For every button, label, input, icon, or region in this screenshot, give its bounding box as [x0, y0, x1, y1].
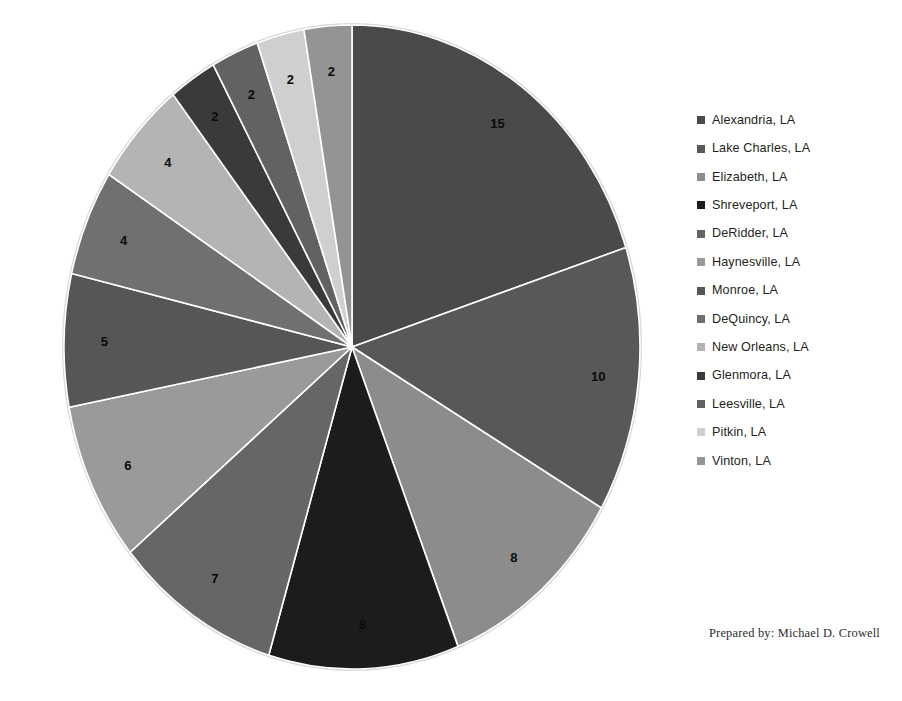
- legend-swatch-icon: [697, 173, 705, 181]
- legend-swatch-icon: [697, 201, 705, 209]
- legend-swatch-icon: [697, 372, 705, 380]
- legend-item[interactable]: Lake Charles, LA: [697, 134, 897, 162]
- legend-swatch-icon: [697, 145, 705, 153]
- legend-item[interactable]: Glenmora, LA: [697, 362, 897, 390]
- chart-legend: Alexandria, LALake Charles, LAElizabeth,…: [697, 106, 897, 475]
- legend-item-label: New Orleans, LA: [712, 341, 809, 354]
- legend-item-label: DeQuincy, LA: [712, 313, 790, 326]
- legend-item[interactable]: Vinton, LA: [697, 447, 897, 475]
- legend-item[interactable]: Haynesville, LA: [697, 248, 897, 276]
- legend-item[interactable]: DeQuincy, LA: [697, 305, 897, 333]
- legend-item-label: Leesville, LA: [712, 398, 785, 411]
- legend-item[interactable]: Monroe, LA: [697, 276, 897, 304]
- legend-item[interactable]: Pitkin, LA: [697, 418, 897, 446]
- legend-item-label: Vinton, LA: [712, 455, 771, 468]
- legend-item-label: Glenmora, LA: [712, 369, 791, 382]
- legend-item[interactable]: DeRidder, LA: [697, 220, 897, 248]
- legend-item[interactable]: Alexandria, LA: [697, 106, 897, 134]
- prepared-by-credit: Prepared by: Michael D. Crowell: [709, 626, 880, 641]
- legend-swatch-icon: [697, 258, 705, 266]
- legend-item[interactable]: New Orleans, LA: [697, 333, 897, 361]
- legend-item-label: Pitkin, LA: [712, 426, 766, 439]
- legend-item-label: DeRidder, LA: [712, 227, 788, 240]
- legend-swatch-icon: [697, 343, 705, 351]
- legend-item-label: Alexandria, LA: [712, 114, 795, 127]
- legend-item[interactable]: Leesville, LA: [697, 390, 897, 418]
- legend-swatch-icon: [697, 315, 705, 323]
- legend-swatch-icon: [697, 457, 705, 465]
- legend-item-label: Lake Charles, LA: [712, 142, 810, 155]
- legend-swatch-icon: [697, 116, 705, 124]
- legend-swatch-icon: [697, 428, 705, 436]
- legend-swatch-icon: [697, 230, 705, 238]
- legend-item-label: Elizabeth, LA: [712, 171, 788, 184]
- legend-item-label: Monroe, LA: [712, 284, 778, 297]
- legend-swatch-icon: [697, 400, 705, 408]
- legend-item-label: Shreveport, LA: [712, 199, 797, 212]
- legend-item-label: Haynesville, LA: [712, 256, 800, 269]
- legend-item[interactable]: Shreveport, LA: [697, 191, 897, 219]
- pie-slices-group: [62, 23, 642, 671]
- legend-swatch-icon: [697, 287, 705, 295]
- legend-item[interactable]: Elizabeth, LA: [697, 163, 897, 191]
